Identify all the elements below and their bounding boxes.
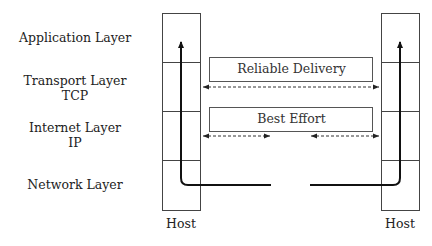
host-label-right: Host xyxy=(370,216,430,231)
best-effort-label: Best Effort xyxy=(210,108,373,130)
host-label-left: Host xyxy=(151,216,211,231)
reliable-delivery-label: Reliable Delivery xyxy=(210,58,373,80)
